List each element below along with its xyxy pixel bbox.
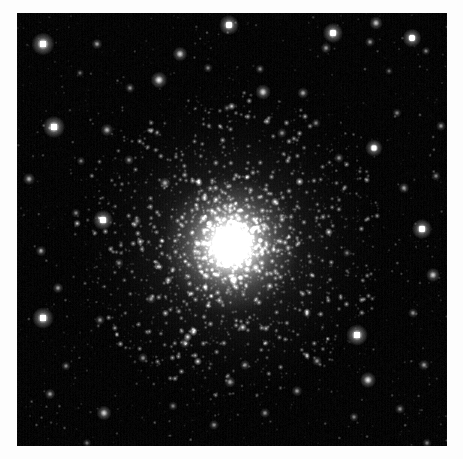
screenshot-root: Black and white astronomical image of a … (0, 0, 463, 459)
globular-cluster-image (17, 13, 447, 446)
sky-image-panel (17, 13, 447, 446)
